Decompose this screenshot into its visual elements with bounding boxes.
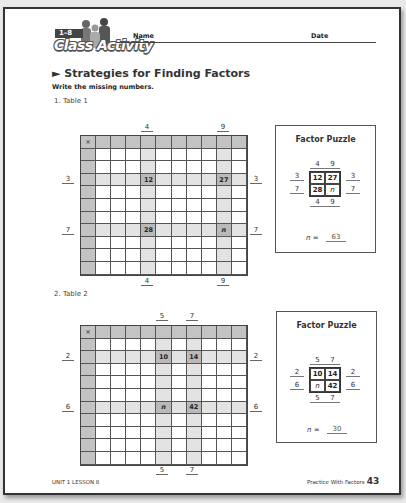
puzzle-cell: 10 [310, 368, 325, 380]
grid-cell [187, 414, 202, 427]
grid-header-cell [232, 136, 247, 149]
table1-row-factor-left[interactable]: 7 [62, 226, 74, 235]
table1-col-factor-bottom[interactable]: 4 [141, 277, 153, 286]
grid-cell [172, 452, 187, 465]
grid-cell [187, 364, 202, 377]
grid-cell [141, 199, 156, 212]
grid-cell [187, 149, 202, 162]
table1-col-factor-top[interactable]: 9 [217, 123, 229, 132]
grid-cell [202, 199, 217, 212]
table1-row-factor-right[interactable]: 3 [250, 175, 262, 184]
grid-cell [187, 339, 202, 352]
table2-row-factor-left[interactable]: 2 [62, 352, 74, 361]
grid-cell [111, 339, 126, 352]
grid-cell [126, 186, 141, 199]
grid-cell [187, 174, 202, 187]
grid-cell [187, 249, 202, 262]
grid-cell [126, 212, 141, 225]
grid-cell [141, 237, 156, 250]
section-title: ► Strategies for Finding Factors [52, 67, 250, 80]
grid-cell [156, 161, 171, 174]
grid-cell [96, 427, 111, 440]
table2-label: 2. Table 2 [54, 290, 88, 298]
grid-cell [202, 402, 217, 415]
product-cell: 42 [187, 402, 202, 415]
puzzle-right-factor: 3 [346, 172, 360, 181]
puzzle-bottom-factor: 4 [310, 198, 325, 207]
puzzle-bottom-factor: 9 [325, 198, 340, 207]
grid-cell [217, 427, 232, 440]
puzzle-top-factor: 5 [310, 356, 325, 365]
grid-cell [202, 389, 217, 402]
table2-col-factor-top[interactable]: 7 [186, 312, 198, 321]
product-cell: 28 [141, 224, 156, 237]
grid-cell [172, 212, 187, 225]
puzzle-grid: 10 14 n 42 [309, 367, 341, 393]
grid-cell [187, 237, 202, 250]
grid-cell [202, 376, 217, 389]
grid-cell [172, 262, 187, 275]
grid-cell [126, 427, 141, 440]
grid-cell [156, 237, 171, 250]
table2-row-factor-right[interactable]: 6 [250, 403, 262, 412]
table1-col-factor-top[interactable]: 4 [141, 123, 153, 132]
answer-field[interactable]: 30 [327, 425, 347, 434]
table1-row-factor-left[interactable]: 3 [62, 175, 74, 184]
grid-cell [111, 186, 126, 199]
grid-cell [187, 439, 202, 452]
table2-row-factor-left[interactable]: 6 [62, 403, 74, 412]
grid-cell [141, 427, 156, 440]
grid-cell [111, 161, 126, 174]
table2-multiplication-grid: ×1014n42 [80, 325, 248, 466]
grid-cell [111, 224, 126, 237]
product-cell: n [156, 402, 171, 415]
puzzle-cell: 28 [310, 184, 325, 196]
grid-header-cell [81, 402, 96, 415]
grid-header-cell [141, 326, 156, 339]
grid-cell [232, 364, 247, 377]
grid-cell [217, 376, 232, 389]
answer-field[interactable]: 63 [326, 233, 346, 242]
grid-header-cell [202, 326, 217, 339]
grid-cell [141, 249, 156, 262]
grid-cell [111, 364, 126, 377]
table1-multiplication-grid: ×122728n [80, 135, 248, 276]
grid-cell [232, 199, 247, 212]
puzzle-grid: 12 27 28 n [309, 171, 341, 197]
grid-cell [156, 212, 171, 225]
table2-col-factor-bottom[interactable]: 7 [186, 466, 198, 475]
grid-cell [172, 161, 187, 174]
grid-cell [141, 364, 156, 377]
grid-cell [156, 262, 171, 275]
table1-row-factor-right[interactable]: 7 [250, 226, 262, 235]
footer-lesson-title: Practice With Factors43 [307, 476, 379, 486]
grid-cell [96, 249, 111, 262]
grid-header-cell [187, 326, 202, 339]
grid-cell [96, 237, 111, 250]
grid-cell [126, 224, 141, 237]
grid-cell [96, 174, 111, 187]
table2-row-factor-right[interactable]: 2 [250, 352, 262, 361]
puzzle-left-factor: 2 [290, 368, 304, 377]
table2-col-factor-bottom[interactable]: 5 [156, 466, 168, 475]
grid-cell [111, 452, 126, 465]
product-cell: 14 [187, 351, 202, 364]
table1-col-factor-bottom[interactable]: 9 [217, 277, 229, 286]
grid-cell [126, 262, 141, 275]
grid-cell [126, 389, 141, 402]
grid-cell [172, 364, 187, 377]
grid-cell [96, 414, 111, 427]
puzzle-top-factor: 9 [325, 160, 340, 169]
grid-cell [232, 452, 247, 465]
grid-cell [202, 174, 217, 187]
puzzle-right-factor: 2 [346, 368, 360, 377]
grid-cell [141, 376, 156, 389]
grid-cell [187, 452, 202, 465]
grid-header-cell [172, 326, 187, 339]
grid-cell [232, 402, 247, 415]
grid-cell [172, 351, 187, 364]
puzzle-cell: 14 [325, 368, 340, 380]
grid-cell [126, 376, 141, 389]
name-field[interactable] [116, 33, 376, 43]
table2-col-factor-top[interactable]: 5 [156, 312, 168, 321]
